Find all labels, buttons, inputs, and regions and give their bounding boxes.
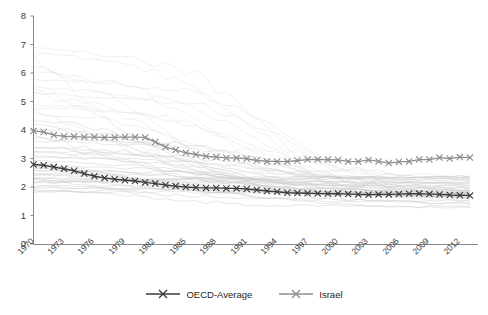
chart-legend: OECD-Average Israel	[0, 288, 488, 300]
y-tick-label: 5	[10, 97, 26, 107]
chart-axes	[31, 16, 479, 245]
y-tick-label: 2	[10, 182, 26, 192]
legend-marker-israel	[278, 288, 314, 300]
fertility-rate-chart: 012345678 197019731976197919821985198819…	[0, 0, 488, 315]
background-country-line	[34, 79, 471, 192]
legend-marker-oecd-average	[145, 288, 181, 300]
legend-item-israel[interactable]: Israel	[278, 288, 342, 300]
y-tick-label: 8	[10, 11, 26, 21]
y-tick-label: 1	[10, 211, 26, 221]
legend-label-israel: Israel	[319, 289, 342, 300]
y-tick-label: 4	[10, 125, 26, 135]
y-tick-label: 6	[10, 68, 26, 78]
background-country-line	[34, 66, 471, 185]
background-country-lines	[34, 47, 471, 208]
background-country-line	[34, 92, 471, 196]
plot-area	[0, 0, 488, 315]
legend-label-oecd-average: OECD-Average	[186, 289, 252, 300]
y-tick-label: 3	[10, 154, 26, 164]
legend-item-oecd-average[interactable]: OECD-Average	[145, 288, 252, 300]
y-tick-label: 7	[10, 40, 26, 50]
